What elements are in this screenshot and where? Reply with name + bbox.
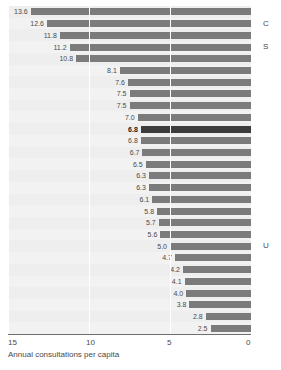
table-row: 6.3 xyxy=(8,170,251,182)
bar-rows: 13.612.611.811.210.88.17.67.57.57.06.86.… xyxy=(8,6,251,334)
table-row: 11.8 xyxy=(8,29,251,41)
bar xyxy=(141,126,251,133)
bar-value-label: 10.8 xyxy=(59,55,73,62)
grid-line xyxy=(251,6,252,334)
bar xyxy=(206,313,251,320)
bar-value-label: 2.8 xyxy=(193,313,203,320)
bar xyxy=(186,290,251,297)
bar-value-label: 6.1 xyxy=(139,195,149,202)
bar-value-label: 12.6 xyxy=(30,20,44,27)
table-row: 13.6 xyxy=(8,6,251,18)
bar-value-label: 7.0 xyxy=(125,113,135,120)
bar xyxy=(120,67,251,74)
bar xyxy=(152,196,251,203)
bar xyxy=(160,231,251,238)
grid-line xyxy=(170,6,171,334)
bar-value-label: 7.5 xyxy=(117,90,127,97)
bar-value-label: 4.2 xyxy=(170,266,180,273)
bar-value-label: 6.3 xyxy=(136,172,146,179)
bar xyxy=(149,172,251,179)
row-marker-u: U xyxy=(263,242,269,250)
table-row: 11.2 xyxy=(8,41,251,53)
table-row: 3.8 xyxy=(8,299,251,311)
table-row: 4.2 xyxy=(8,264,251,276)
grid-line xyxy=(8,6,9,334)
bar xyxy=(211,325,252,332)
bar xyxy=(183,266,251,273)
bar xyxy=(138,114,251,121)
table-row: 12.6 xyxy=(8,18,251,30)
bar-value-label: 4.1 xyxy=(172,277,182,284)
table-row: 2.5 xyxy=(8,322,251,334)
table-row: 6.7 xyxy=(8,147,251,159)
bar xyxy=(157,208,251,215)
bar-value-label: 6.7 xyxy=(130,148,140,155)
bar xyxy=(159,219,251,226)
bar xyxy=(170,243,251,250)
table-row: 6.8 xyxy=(8,123,251,135)
table-row: 5.7 xyxy=(8,217,251,229)
bar xyxy=(31,8,251,15)
bar-value-label: 2.5 xyxy=(198,324,208,331)
bar xyxy=(149,184,251,191)
table-row: 7.5 xyxy=(8,88,251,100)
table-row: 4.1 xyxy=(8,276,251,288)
table-row: 7.6 xyxy=(8,76,251,88)
row-marker-c: C xyxy=(263,20,269,28)
bar-value-label: 7.6 xyxy=(115,78,125,85)
table-row: 6.5 xyxy=(8,158,251,170)
bar xyxy=(130,102,252,109)
bar-value-label: 6.8 xyxy=(128,137,138,144)
bar-value-label: 5.7 xyxy=(146,219,156,226)
bar xyxy=(185,278,251,285)
table-row: 6.1 xyxy=(8,194,251,206)
grid-line xyxy=(89,6,90,334)
bar-value-label: 3.8 xyxy=(177,301,187,308)
bar-value-label: 13.6 xyxy=(14,8,28,15)
plot-area: 13.612.611.811.210.88.17.67.57.57.06.86.… xyxy=(8,6,251,334)
bar xyxy=(141,137,251,144)
bar-value-label: 7.5 xyxy=(117,102,127,109)
table-row: 5.0 xyxy=(8,240,251,252)
x-tick-label: 5 xyxy=(167,338,171,347)
row-marker-s: S xyxy=(263,43,268,51)
x-tick-label: 10 xyxy=(86,338,95,347)
bar-value-label: 5.0 xyxy=(157,242,167,249)
bar xyxy=(175,254,251,261)
bar xyxy=(128,79,251,86)
row-marker-letters: CSU xyxy=(255,6,281,334)
table-row: 8.1 xyxy=(8,65,251,77)
bar xyxy=(130,90,252,97)
bar xyxy=(146,161,251,168)
x-tick-label: 15 xyxy=(8,338,17,347)
bar xyxy=(70,44,251,51)
table-row: 4.7 xyxy=(8,252,251,264)
table-row: 5.8 xyxy=(8,205,251,217)
table-row: 7.5 xyxy=(8,100,251,112)
bar xyxy=(76,55,251,62)
x-tick-label: 0 xyxy=(246,338,250,347)
bar-value-label: 5.8 xyxy=(144,207,154,214)
x-axis-ticks: 151050 xyxy=(8,336,251,350)
table-row: 4.0 xyxy=(8,287,251,299)
table-row: 6.8 xyxy=(8,135,251,147)
x-axis-line xyxy=(8,334,251,335)
bar xyxy=(189,301,251,308)
bar-value-label: 6.3 xyxy=(136,184,146,191)
bar xyxy=(142,149,251,156)
table-row: 6.3 xyxy=(8,182,251,194)
table-row: 10.8 xyxy=(8,53,251,65)
table-row: 7.0 xyxy=(8,111,251,123)
bar-value-label: 4.0 xyxy=(173,289,183,296)
table-row: 2.8 xyxy=(8,311,251,323)
bar-value-label: 6.8 xyxy=(128,125,138,132)
bar xyxy=(47,20,251,27)
x-axis-label: Annual consultations per capita xyxy=(8,350,119,360)
bar-value-label: 11.2 xyxy=(53,43,66,50)
bar-value-label: 11.8 xyxy=(44,31,57,38)
bar-value-label: 5.6 xyxy=(148,231,158,238)
bar-chart: 13.612.611.811.210.88.17.67.57.57.06.86.… xyxy=(0,0,281,370)
bar-value-label: 8.1 xyxy=(107,66,117,73)
table-row: 5.6 xyxy=(8,229,251,241)
bar-value-label: 6.5 xyxy=(133,160,143,167)
